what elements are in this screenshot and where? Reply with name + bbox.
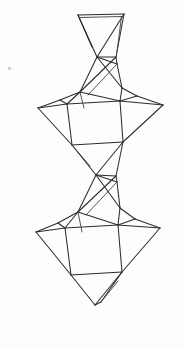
upper-equator-part: [38, 88, 163, 145]
bottom-apex-part: [71, 272, 122, 305]
upper-hourglass-part: [80, 57, 122, 95]
lower-hourglass-part: [72, 142, 123, 215]
top-frustum-part: [78, 14, 124, 57]
drawing-canvas: Wireframe Polyhedron Sketch Vertical sta…: [0, 0, 183, 348]
wireframe-figure: [0, 0, 183, 348]
paper-speck: [8, 67, 11, 70]
bottom-prism-part: [65, 212, 122, 275]
lower-equator-part: [36, 208, 160, 275]
